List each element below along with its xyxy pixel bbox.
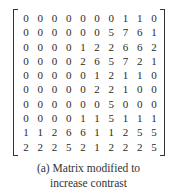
matrix-cell: 0 xyxy=(47,82,61,96)
matrix-cell: 0 xyxy=(47,25,61,39)
matrix-cell: 0 xyxy=(76,11,90,25)
matrix-cell: 0 xyxy=(47,11,61,25)
matrix-cell: 2 xyxy=(104,68,118,82)
matrix-cell: 1 xyxy=(147,54,161,68)
matrix-cell: 2 xyxy=(33,140,47,154)
matrix-cell: 1 xyxy=(118,111,132,125)
matrix-cell: 2 xyxy=(76,140,90,154)
matrix-cell: 1 xyxy=(76,40,90,54)
matrix-cell: 0 xyxy=(33,82,47,96)
matrix-cell: 1 xyxy=(118,11,132,25)
matrix-cell: 0 xyxy=(47,97,61,111)
matrix-cell: 0 xyxy=(118,97,132,111)
matrix-cell: 5 xyxy=(104,54,118,68)
matrix-cell: 6 xyxy=(76,125,90,139)
matrix-cell: 5 xyxy=(104,25,118,39)
matrix-cell: 0 xyxy=(19,25,33,39)
matrix-cell: 2 xyxy=(90,82,104,96)
matrix-cell: 5 xyxy=(104,111,118,125)
matrix-cell: 0 xyxy=(33,68,47,82)
matrix-cell: 0 xyxy=(47,111,61,125)
matrix: 0000000110000000576100001226620000265721… xyxy=(13,9,165,156)
matrix-cell: 2 xyxy=(118,125,132,139)
matrix-cell: 1 xyxy=(33,125,47,139)
matrix-cell: 0 xyxy=(19,54,33,68)
matrix-cell: 2 xyxy=(47,125,61,139)
matrix-cell: 0 xyxy=(62,11,76,25)
matrix-cell: 0 xyxy=(19,11,33,25)
matrix-cell: 2 xyxy=(133,54,147,68)
matrix-cell: 7 xyxy=(118,54,132,68)
figure-caption: (a) Matrix modified to increase contrast xyxy=(0,161,177,191)
matrix-cell: 0 xyxy=(33,40,47,54)
matrix-cell: 0 xyxy=(47,40,61,54)
matrix-cell: 5 xyxy=(133,125,147,139)
left-bracket xyxy=(13,9,18,156)
matrix-cell: 2 xyxy=(147,40,161,54)
matrix-cell: 2 xyxy=(133,140,147,154)
matrix-cell: 1 xyxy=(118,82,132,96)
matrix-cell: 2 xyxy=(118,140,132,154)
matrix-cell: 0 xyxy=(19,111,33,125)
matrix-cell: 0 xyxy=(47,54,61,68)
matrix-cell: 0 xyxy=(104,11,118,25)
matrix-cell: 5 xyxy=(147,140,161,154)
matrix-cell: 6 xyxy=(90,54,104,68)
matrix-cell: 0 xyxy=(19,82,33,96)
matrix-cell: 0 xyxy=(33,97,47,111)
matrix-cell: 0 xyxy=(33,111,47,125)
matrix-cell: 0 xyxy=(62,97,76,111)
matrix-cell: 1 xyxy=(133,11,147,25)
matrix-cell: 0 xyxy=(62,40,76,54)
matrix-cell: 0 xyxy=(62,111,76,125)
matrix-cell: 0 xyxy=(33,11,47,25)
matrix-cell: 0 xyxy=(76,82,90,96)
matrix-cell: 0 xyxy=(62,54,76,68)
matrix-cell: 6 xyxy=(118,40,132,54)
matrix-cell: 1 xyxy=(90,68,104,82)
matrix-cell: 2 xyxy=(76,54,90,68)
matrix-cell: 6 xyxy=(62,125,76,139)
matrix-cell: 2 xyxy=(19,140,33,154)
matrix-cell: 0 xyxy=(147,68,161,82)
matrix-cell: 5 xyxy=(62,140,76,154)
matrix-cell: 0 xyxy=(133,82,147,96)
matrix-cell: 1 xyxy=(133,111,147,125)
matrix-cell: 0 xyxy=(19,40,33,54)
matrix-cell: 6 xyxy=(133,40,147,54)
matrix-cell: 0 xyxy=(90,97,104,111)
matrix-cell: 0 xyxy=(90,25,104,39)
matrix-cell: 2 xyxy=(104,82,118,96)
matrix-cell: 0 xyxy=(133,97,147,111)
matrix-cell: 1 xyxy=(147,111,161,125)
caption-line-2: increase contrast xyxy=(0,176,177,191)
matrix-cell: 0 xyxy=(47,68,61,82)
matrix-cell: 7 xyxy=(118,25,132,39)
matrix-cell: 0 xyxy=(90,11,104,25)
matrix-cell: 2 xyxy=(104,140,118,154)
matrix-cell: 2 xyxy=(90,40,104,54)
matrix-cell: 2 xyxy=(47,140,61,154)
right-bracket xyxy=(160,9,165,156)
matrix-cell: 0 xyxy=(19,68,33,82)
matrix-cell: 1 xyxy=(90,111,104,125)
matrix-cell: 0 xyxy=(19,97,33,111)
matrix-cell: 1 xyxy=(104,125,118,139)
matrix-cell: 1 xyxy=(147,25,161,39)
matrix-cell: 0 xyxy=(147,11,161,25)
matrix-cell: 0 xyxy=(76,97,90,111)
matrix-cell: 0 xyxy=(62,25,76,39)
matrix-cell: 1 xyxy=(133,68,147,82)
matrix-cell: 1 xyxy=(90,125,104,139)
matrix-cell: 0 xyxy=(76,25,90,39)
matrix-cell: 0 xyxy=(147,82,161,96)
matrix-grid: 0000000110000000576100001226620000265721… xyxy=(19,11,161,154)
matrix-cell: 0 xyxy=(76,68,90,82)
matrix-cell: 1 xyxy=(76,111,90,125)
matrix-cell: 1 xyxy=(19,125,33,139)
caption-line-1: (a) Matrix modified to xyxy=(0,161,177,176)
matrix-cell: 0 xyxy=(33,25,47,39)
matrix-cell: 5 xyxy=(147,125,161,139)
matrix-cell: 6 xyxy=(133,25,147,39)
matrix-cell: 1 xyxy=(118,68,132,82)
